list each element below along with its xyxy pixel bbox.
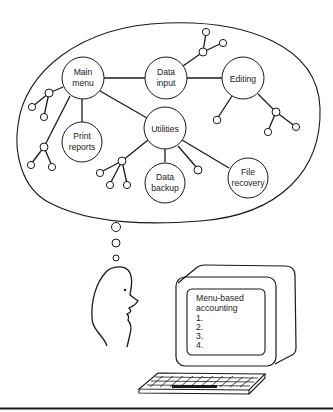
node-label: File — [241, 167, 255, 177]
menu-item: 4. — [196, 340, 203, 350]
spacebar — [172, 385, 217, 388]
screen-title: accounting — [196, 303, 238, 313]
node-label: input — [157, 78, 176, 88]
node-label: Data — [156, 172, 174, 182]
node-label: recovery — [232, 178, 266, 188]
thought-trail-icon — [112, 223, 121, 262]
node-data-input: Data input — [145, 57, 187, 99]
node-label: menu — [72, 78, 94, 88]
node-label: Editing — [230, 74, 256, 84]
node-label: Main — [74, 67, 93, 77]
node-file-recovery: File recovery — [228, 158, 268, 198]
node-utilities: Utilities — [144, 107, 186, 149]
node-label: Utilities — [151, 124, 179, 134]
node-print-reports: Print reports — [62, 122, 102, 162]
person-head-icon — [92, 267, 138, 347]
eye-icon — [124, 289, 126, 291]
monitor-icon: Menu-based accounting 1. 2. 3. 4. — [176, 265, 296, 366]
node-label: Print — [73, 131, 91, 141]
node-data-backup: Data backup — [145, 163, 185, 203]
node-label: backup — [151, 183, 179, 193]
node-editing: Editing — [222, 57, 264, 99]
node-main-menu: Main menu — [62, 57, 104, 99]
menu-based-accounting-illustration: Main menu Data input Editing Utilities P… — [0, 0, 333, 412]
keyboard-icon — [139, 373, 265, 394]
screen-title: Menu-based — [196, 293, 244, 303]
node-label: Data — [157, 67, 175, 77]
node-label: reports — [69, 142, 96, 152]
